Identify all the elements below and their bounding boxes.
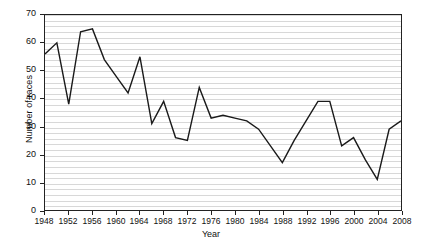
- x-tick-mark: [68, 211, 69, 215]
- y-tick-label: 20: [6, 149, 36, 159]
- x-tick-mark: [44, 211, 45, 215]
- chart-figure: Number of races 010203040506070 19481952…: [0, 0, 422, 248]
- x-tick-mark: [163, 211, 164, 215]
- x-tick-mark: [259, 211, 260, 215]
- x-tick-mark: [116, 211, 117, 215]
- x-tick-mark: [211, 211, 212, 215]
- plot-area: [44, 14, 402, 211]
- x-tick-mark: [139, 211, 140, 215]
- y-tick-label: 50: [6, 64, 36, 74]
- x-axis-title: Year: [0, 229, 422, 239]
- y-tick-label: 10: [6, 177, 36, 187]
- x-tick-mark: [402, 211, 403, 215]
- x-tick-mark: [235, 211, 236, 215]
- x-tick-mark: [330, 211, 331, 215]
- x-tick-mark: [187, 211, 188, 215]
- y-tick-label: 60: [6, 36, 36, 46]
- y-tick-label: 30: [6, 121, 36, 131]
- x-tick-label: 2008: [382, 216, 422, 226]
- data-line: [45, 15, 401, 210]
- x-tick-mark: [378, 211, 379, 215]
- y-tick-label: 70: [6, 8, 36, 18]
- x-tick-mark: [307, 211, 308, 215]
- y-tick-label: 0: [6, 205, 36, 215]
- y-tick-label: 40: [6, 92, 36, 102]
- x-tick-mark: [92, 211, 93, 215]
- x-tick-mark: [283, 211, 284, 215]
- x-tick-mark: [354, 211, 355, 215]
